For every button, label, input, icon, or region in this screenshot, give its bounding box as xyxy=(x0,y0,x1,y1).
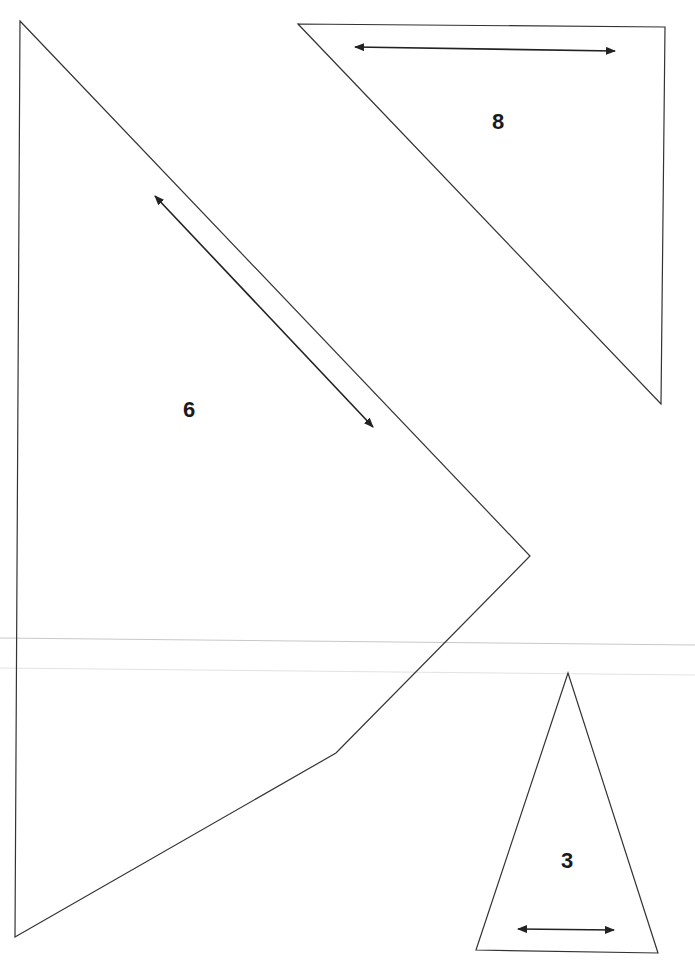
piece-8-label: 8 xyxy=(492,111,504,133)
guide-line-light xyxy=(0,668,695,675)
guide-line xyxy=(0,638,695,645)
piece-3-label: 3 xyxy=(561,850,573,872)
pattern-piece-3 xyxy=(476,673,658,953)
piece-8-outline xyxy=(298,24,665,404)
piece-8-grain-arrow-icon xyxy=(355,47,615,51)
piece-6-grain-arrow-icon xyxy=(155,196,373,427)
piece-3-grain-arrow-icon xyxy=(518,929,614,930)
pattern-canvas xyxy=(0,0,695,971)
pattern-piece-6 xyxy=(15,21,530,937)
piece-6-label: 6 xyxy=(183,399,195,421)
piece-6-outline xyxy=(15,21,530,937)
pattern-piece-8 xyxy=(298,24,665,404)
piece-3-outline xyxy=(476,673,658,953)
